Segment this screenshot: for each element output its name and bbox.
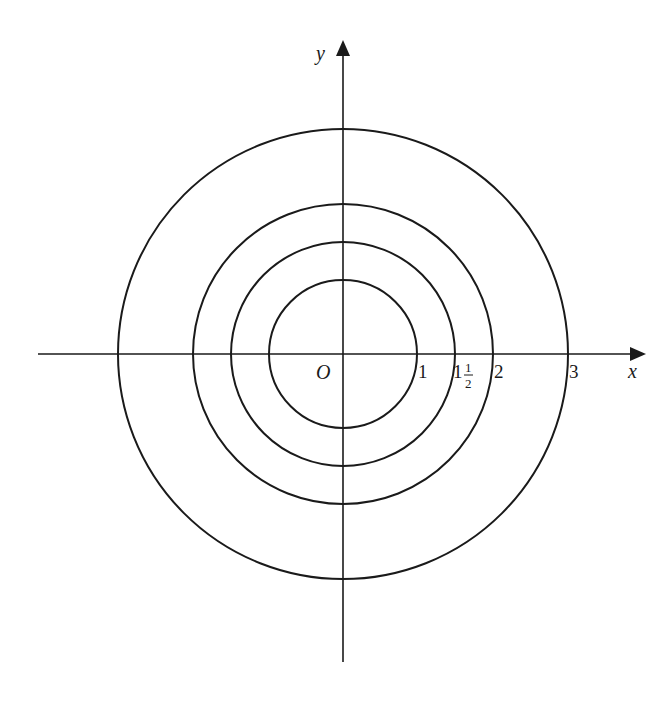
radius-label-1-5: 1 1 2 [453, 360, 473, 391]
radius-label-1-5-numerator: 1 [465, 360, 472, 375]
diagram-canvas: y x O 1 1 1 2 2 3 [0, 0, 664, 707]
x-axis-label: x [627, 360, 637, 382]
y-axis-arrow-icon [336, 40, 350, 56]
origin-label: O [316, 361, 330, 383]
radius-label-3: 3 [569, 361, 579, 382]
radius-label-1: 1 [418, 361, 428, 382]
y-axis-label: y [314, 42, 325, 65]
x-axis-arrow-icon [630, 347, 646, 361]
radius-label-2: 2 [494, 361, 504, 382]
radius-label-1-5-denominator: 2 [465, 376, 472, 391]
radius-label-1-5-whole: 1 [453, 361, 463, 382]
